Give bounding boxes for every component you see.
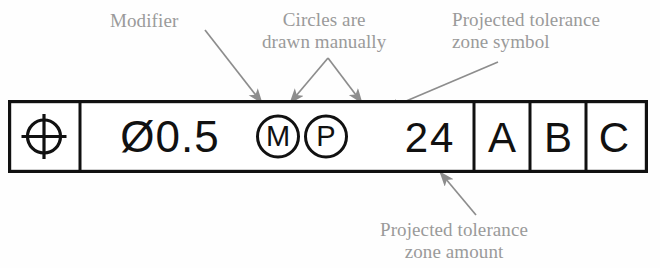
leader-projected-zone-amount <box>440 172 476 215</box>
datum-reference-b: B <box>530 110 586 166</box>
modifier-m-letter: M <box>258 122 298 151</box>
callout-projected-tolerance-zone-symbol: Projected tolerance zone symbol <box>452 9 600 53</box>
modifier-p-letter: P <box>306 122 346 151</box>
leader-circles-left <box>290 58 328 103</box>
datum-reference-c: C <box>586 110 642 166</box>
tolerance-value: Ø0.5 <box>90 108 250 166</box>
diagram-canvas: Modifier Circles are drawn manually Proj… <box>0 0 660 268</box>
callout-projected-tolerance-zone-amount: Projected tolerance zone amount <box>380 219 528 263</box>
leader-circles-right <box>328 58 362 103</box>
datum-reference-a: A <box>474 110 530 166</box>
callout-circles-drawn-manually: Circles are drawn manually <box>262 9 386 53</box>
projected-zone-amount-value: 24 <box>392 110 468 166</box>
callout-modifier: Modifier <box>110 10 178 32</box>
leader-modifier <box>205 30 262 103</box>
